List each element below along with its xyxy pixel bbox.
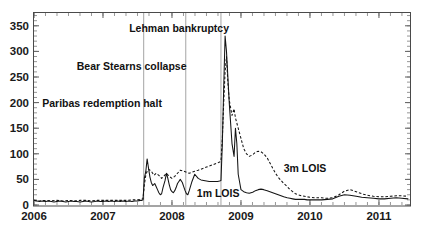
y-tick-label: 200 xyxy=(10,97,29,109)
chart-background xyxy=(0,0,423,239)
y-tick-label: 150 xyxy=(10,122,29,134)
x-tick-label: 2010 xyxy=(297,210,323,222)
y-tick-label: 350 xyxy=(10,20,29,32)
x-tick-label: 2011 xyxy=(366,210,392,222)
x-tick-label: 2009 xyxy=(228,210,254,222)
annotation-label-paribas: Paribas redemption halt xyxy=(42,97,162,109)
x-tick-label: 2006 xyxy=(21,210,47,222)
x-tick-label: 2008 xyxy=(159,210,185,222)
series-label-3m-lois: 3m LOIS xyxy=(284,162,327,174)
annotation-label-bear-stearns: Bear Stearns collapse xyxy=(77,60,187,72)
y-tick-label: 100 xyxy=(10,148,29,160)
series-label-1m-lois: 1m LOIS xyxy=(197,187,240,199)
lois-spread-line-chart: 200620072008200920102011 050100150200250… xyxy=(0,0,423,239)
y-tick-label: 300 xyxy=(10,45,29,57)
y-tick-label: 250 xyxy=(10,71,29,83)
y-tick-label: 0 xyxy=(23,199,29,211)
annotation-label-lehman: Lehman bankruptcy xyxy=(129,22,229,34)
y-tick-label: 50 xyxy=(16,173,29,185)
chart-figure: 200620072008200920102011 050100150200250… xyxy=(0,0,423,239)
x-tick-label: 2007 xyxy=(90,210,116,222)
